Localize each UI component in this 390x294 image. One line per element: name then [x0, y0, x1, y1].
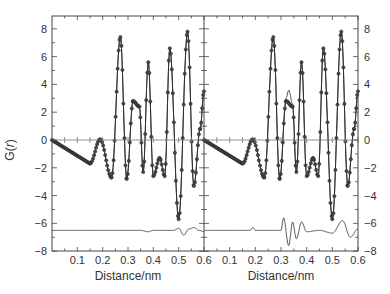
calculated-curve [204, 32, 358, 220]
y-tick-label-left: −8 [34, 245, 47, 257]
panel-left [50, 30, 205, 235]
x-tick-label: 0.4 [146, 254, 161, 266]
y-tick-label-left: 4 [41, 78, 47, 90]
x-tick-label: 0.5 [171, 254, 186, 266]
axes-frame [52, 16, 358, 251]
x-tick-label: 0.1 [222, 254, 237, 266]
calculated-curve [52, 32, 204, 220]
x-tick-label: 0.6 [196, 254, 211, 266]
difference-curve [204, 218, 358, 246]
y-tick-label-right: −6 [364, 217, 377, 229]
x-axis-title-right: Distance/nm [248, 269, 315, 283]
y-tick-label-right: 0 [364, 134, 370, 146]
y-tick-label-right: 4 [364, 78, 370, 90]
difference-curve [52, 228, 204, 236]
x-tick-label: 0.3 [273, 254, 288, 266]
y-tick-label-right: −2 [364, 162, 377, 174]
plot-area [50, 30, 359, 246]
y-tick-label-right: 8 [364, 23, 370, 35]
y-tick-label-left: 8 [41, 23, 47, 35]
x-tick-label: 0.5 [325, 254, 340, 266]
pdf-comparison-chart: 0.10.20.30.40.50.60.10.20.30.40.50.68866… [0, 0, 390, 294]
x-axis-title-left: Distance/nm [95, 269, 162, 283]
experimental-markers [202, 30, 359, 221]
y-tick-label-left: −4 [34, 190, 47, 202]
y-tick-label-right: 6 [364, 51, 370, 63]
y-tick-label-right: −8 [364, 245, 377, 257]
x-tick-label: 0.2 [95, 254, 110, 266]
y-tick-label-right: −4 [364, 190, 377, 202]
y-tick-label-left: 0 [41, 134, 47, 146]
x-tick-label: 0.3 [120, 254, 135, 266]
y-tick-label-right: 2 [364, 106, 370, 118]
x-tick-label: 0.2 [248, 254, 263, 266]
x-tick-label: 0.4 [299, 254, 314, 266]
y-tick-label-left: 2 [41, 106, 47, 118]
experimental-markers [50, 30, 205, 221]
y-axis-title: G(r) [3, 139, 17, 160]
y-tick-label-left: −6 [34, 217, 47, 229]
y-tick-label-left: −2 [34, 162, 47, 174]
x-tick-label: 0.1 [70, 254, 85, 266]
y-tick-label-left: 6 [41, 51, 47, 63]
